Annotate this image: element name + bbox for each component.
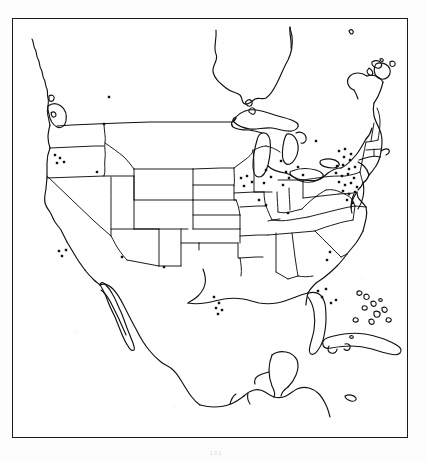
map-point-marker bbox=[335, 172, 337, 174]
map-point-marker bbox=[215, 307, 217, 309]
map-point-marker bbox=[121, 256, 123, 258]
map-point-marker bbox=[59, 157, 61, 159]
map-point-marker bbox=[341, 175, 343, 177]
map-point-marker bbox=[54, 154, 56, 156]
map-point-marker bbox=[243, 185, 245, 187]
canada-hudson-bay-outline bbox=[213, 27, 292, 106]
map-point-marker bbox=[329, 251, 331, 253]
map-point-marker bbox=[213, 296, 215, 298]
canada-northeast-islands bbox=[349, 30, 382, 76]
map-point-marker bbox=[56, 162, 58, 164]
map-point-marker bbox=[353, 177, 355, 179]
map-point-marker bbox=[287, 212, 289, 214]
map-point-marker bbox=[58, 250, 60, 252]
great-lakes-outline bbox=[233, 108, 339, 181]
map-point-marker bbox=[348, 168, 350, 170]
map-point-marker bbox=[348, 193, 350, 195]
map-point-marker bbox=[330, 302, 332, 304]
map-point-marker bbox=[258, 199, 260, 201]
map-point-marker bbox=[263, 182, 265, 184]
map-point-marker bbox=[356, 186, 358, 188]
us-northern-border bbox=[57, 118, 366, 182]
map-point-marker bbox=[163, 266, 165, 268]
map-point-marker bbox=[218, 302, 220, 304]
map-point-marker bbox=[321, 296, 323, 298]
map-point-marker bbox=[354, 166, 356, 168]
us-pacific-coast bbox=[32, 39, 100, 285]
map-point-marker bbox=[315, 140, 317, 142]
map-point-marker bbox=[349, 159, 351, 161]
map-point-marker bbox=[317, 290, 319, 292]
map-point-marker bbox=[338, 181, 340, 183]
map-point-marker bbox=[325, 288, 327, 290]
us-gulf-coast-and-florida bbox=[188, 269, 326, 354]
map-point-marker bbox=[338, 150, 340, 152]
page-number-mark: 131 bbox=[196, 449, 236, 457]
map-point-marker bbox=[280, 160, 282, 162]
map-point-marker bbox=[344, 184, 346, 186]
us-state-boundaries bbox=[47, 108, 381, 279]
map-point-marker bbox=[354, 191, 356, 193]
map-point-marker bbox=[265, 169, 267, 171]
map-point-marker bbox=[297, 166, 299, 168]
map-point-marker bbox=[96, 171, 98, 173]
map-point-marker bbox=[285, 171, 287, 173]
map-point-marker bbox=[270, 176, 272, 178]
map-point-marker bbox=[240, 177, 242, 179]
map-point-marker bbox=[251, 181, 253, 183]
map-point-marker bbox=[326, 259, 328, 261]
map-point-marker bbox=[335, 299, 337, 301]
map-point-marker bbox=[61, 255, 63, 257]
map-point-marker bbox=[346, 199, 348, 201]
map-point-marker bbox=[217, 313, 219, 315]
map-page: 131 bbox=[0, 0, 426, 462]
map-point-marker bbox=[63, 161, 65, 163]
map-point-marker bbox=[108, 96, 110, 98]
map-point-marker bbox=[347, 173, 349, 175]
map-point-marker bbox=[336, 165, 338, 167]
map-point-marker bbox=[265, 204, 267, 206]
map-point-marker bbox=[342, 164, 344, 166]
map-point-marker bbox=[350, 182, 352, 184]
caribbean-islands bbox=[323, 291, 401, 401]
north-america-map bbox=[0, 0, 426, 462]
map-point-marker bbox=[246, 175, 248, 177]
map-point-marker bbox=[342, 190, 344, 192]
map-point-marker bbox=[344, 148, 346, 150]
map-point-marker bbox=[302, 174, 304, 176]
map-point-marker bbox=[352, 202, 354, 204]
map-point-marker bbox=[288, 177, 290, 179]
map-point-marker bbox=[221, 309, 223, 311]
map-point-marker bbox=[282, 184, 284, 186]
map-point-marker bbox=[103, 123, 105, 125]
map-point-marker bbox=[350, 153, 352, 155]
map-point-marker bbox=[343, 156, 345, 158]
baja-california-and-mexico-west bbox=[100, 283, 200, 405]
map-point-marker bbox=[65, 249, 67, 251]
mexico-south-and-central-america bbox=[200, 352, 330, 417]
location-markers bbox=[54, 96, 358, 315]
